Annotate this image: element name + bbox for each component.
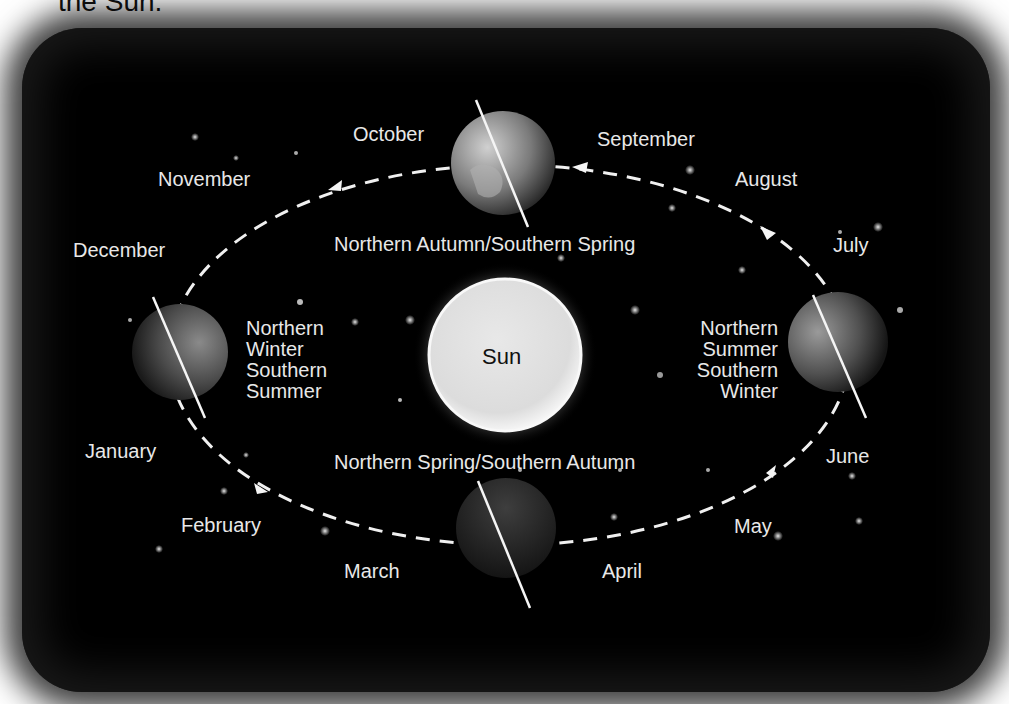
month-february: February	[181, 515, 261, 536]
earth-autumn-equinox	[451, 100, 555, 227]
season-line: Southern	[688, 360, 778, 381]
arrow-icon	[766, 465, 776, 478]
month-october: October	[353, 124, 424, 145]
season-line: Northern	[688, 318, 778, 339]
season-label-left: Northern Winter Southern Summer	[246, 318, 327, 402]
month-july: July	[833, 235, 869, 256]
month-march: March	[344, 561, 400, 582]
month-september: September	[597, 129, 695, 150]
season-label-bottom: Northern Spring/Southern Autumn	[334, 452, 635, 473]
arrow-icon	[572, 162, 588, 173]
month-december: December	[73, 240, 165, 261]
season-line: Summer	[688, 339, 778, 360]
season-label-right: Northern Summer Southern Winter	[688, 318, 778, 402]
season-line: Southern	[246, 360, 327, 381]
month-january: January	[85, 441, 156, 462]
month-november: November	[158, 169, 250, 190]
season-line: Winter	[246, 339, 327, 360]
month-april: April	[602, 561, 642, 582]
arrow-icon	[328, 180, 342, 191]
month-june: June	[826, 446, 869, 467]
season-line: Winter	[688, 381, 778, 402]
month-august: August	[735, 169, 797, 190]
earth-winter-solstice	[132, 297, 228, 418]
earth-summer-solstice	[788, 292, 888, 418]
arrow-icon	[760, 226, 776, 240]
season-line: Northern	[246, 318, 327, 339]
month-may: May	[734, 516, 772, 537]
season-label-top: Northern Autumn/Southern Spring	[334, 234, 635, 255]
season-line: Summer	[246, 381, 327, 402]
earth-spring-equinox	[456, 478, 556, 608]
sun-label: Sun	[482, 344, 521, 370]
